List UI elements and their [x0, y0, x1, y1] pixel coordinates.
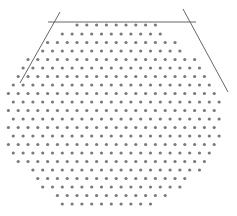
lattice-dot — [75, 126, 78, 129]
lattice-dot — [66, 126, 69, 129]
lattice-dot — [149, 134, 152, 137]
lattice-dot — [134, 75, 137, 78]
lattice-dot — [61, 49, 64, 52]
lattice-dot — [71, 100, 74, 103]
lattice-dot — [61, 83, 64, 86]
lattice-dot — [66, 109, 69, 112]
lattice-dot — [144, 75, 147, 78]
lattice-dot — [31, 100, 34, 103]
lattice-dot — [173, 109, 176, 112]
lattice-dot — [71, 134, 74, 137]
lattice-dot — [154, 143, 157, 146]
lattice-dot — [85, 126, 88, 129]
lattice-dot — [178, 134, 181, 137]
lattice-dot — [183, 58, 186, 61]
lattice-dot — [213, 126, 216, 129]
lattice-dot — [26, 58, 29, 61]
lattice-dot — [139, 168, 142, 171]
lattice-dot — [95, 126, 98, 129]
lattice-dot — [208, 151, 211, 154]
lattice-dot — [203, 92, 206, 95]
lattice-dot — [198, 83, 201, 86]
lattice-dot — [124, 41, 127, 44]
lattice-dot — [159, 151, 162, 154]
lattice-dot — [110, 117, 113, 120]
lattice-dot — [144, 194, 147, 197]
lattice-dot — [193, 92, 196, 95]
lattice-dot — [120, 49, 123, 52]
lattice-dot — [139, 32, 142, 35]
lattice-dot — [124, 143, 127, 146]
lattice-dot — [120, 151, 123, 154]
lattice-dot — [36, 177, 39, 180]
lattice-dot — [115, 143, 118, 146]
left-slant-line — [20, 12, 60, 83]
lattice-dot — [218, 117, 221, 120]
lattice-dot — [61, 168, 64, 171]
lattice-dot — [188, 151, 191, 154]
lattice-dot — [80, 66, 83, 69]
lattice-dot — [75, 177, 78, 180]
lattice-dot — [129, 168, 132, 171]
lattice-dot — [178, 185, 181, 188]
lattice-dot — [61, 66, 64, 69]
lattice-dot — [110, 66, 113, 69]
lattice-dot — [154, 109, 157, 112]
lattice-dot — [12, 151, 15, 154]
lattice-dot — [149, 32, 152, 35]
lattice-svg — [0, 0, 237, 216]
lattice-dot — [105, 41, 108, 44]
lattice-dot — [110, 185, 113, 188]
lattice-dot — [149, 185, 152, 188]
lattice-dot — [51, 66, 54, 69]
lattice-dot — [159, 185, 162, 188]
lattice-dot — [173, 177, 176, 180]
lattice-dot — [124, 92, 127, 95]
lattice-dot — [75, 75, 78, 78]
lattice-dot — [120, 66, 123, 69]
lattice-dot — [61, 100, 64, 103]
lattice-dot — [183, 92, 186, 95]
lattice-dot — [203, 109, 206, 112]
lattice-dot — [100, 32, 103, 35]
lattice-dot — [110, 83, 113, 86]
lattice-dot — [129, 151, 132, 154]
lattice-dot — [66, 194, 69, 197]
lattice-dot — [105, 75, 108, 78]
lattice-dot — [66, 160, 69, 163]
lattice-dot — [100, 151, 103, 154]
lattice-dot — [7, 126, 10, 129]
lattice-dot — [7, 143, 10, 146]
lattice-dot — [51, 100, 54, 103]
lattice-dot — [31, 168, 34, 171]
lattice-dot — [31, 117, 34, 120]
lattice-dot — [149, 66, 152, 69]
lattice-dot — [154, 126, 157, 129]
lattice-dot — [139, 151, 142, 154]
lattice-dot — [188, 134, 191, 137]
lattice-dot — [26, 143, 29, 146]
lattice-dot — [149, 100, 152, 103]
lattice-dot — [203, 75, 206, 78]
lattice-dot — [169, 168, 172, 171]
lattice-dot — [95, 160, 98, 163]
lattice-dot — [22, 66, 25, 69]
lattice-dot — [134, 23, 137, 26]
lattice-dot — [80, 202, 83, 205]
lattice-dot — [208, 134, 211, 137]
lattice-dot — [144, 58, 147, 61]
lattice-dot — [85, 160, 88, 163]
lattice-dot — [22, 83, 25, 86]
lattice-dot — [154, 194, 157, 197]
lattice-dot — [51, 83, 54, 86]
lattice-dot — [41, 151, 44, 154]
lattice-dot — [115, 160, 118, 163]
lattice-dot — [134, 126, 137, 129]
lattice-dot — [129, 66, 132, 69]
lattice-dot — [159, 100, 162, 103]
lattice-dot — [159, 168, 162, 171]
lattice-dot — [115, 92, 118, 95]
lattice-dot — [85, 58, 88, 61]
lattice-dot — [90, 134, 93, 137]
lattice-dot — [213, 109, 216, 112]
